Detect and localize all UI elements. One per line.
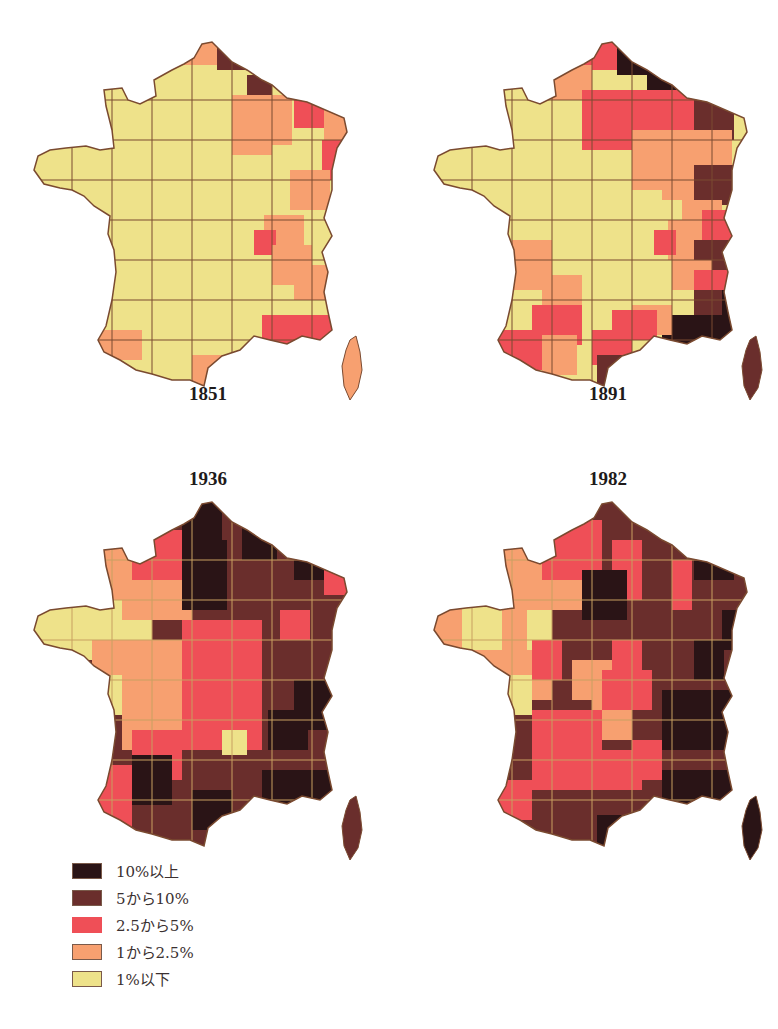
legend-swatch xyxy=(72,917,102,933)
legend-swatch xyxy=(72,863,102,879)
legend-item-5-10: 5から10% xyxy=(72,884,194,911)
map-1936 xyxy=(32,500,372,870)
legend-label: 5から10% xyxy=(116,887,189,908)
legend-swatch xyxy=(72,890,102,906)
year-label-1891: 1891 xyxy=(568,383,648,405)
legend-item-under-1: 1%以下 xyxy=(72,965,194,992)
year-label-1851: 1851 xyxy=(168,383,248,405)
year-label-1936: 1936 xyxy=(168,468,248,490)
legend-label: 1から2.5% xyxy=(116,941,194,962)
legend-swatch xyxy=(72,971,102,987)
year-label-1982: 1982 xyxy=(568,468,648,490)
legend-item-10plus: 10%以上 xyxy=(72,857,194,884)
legend: 10%以上 5から10% 2.5から5% 1から2.5% 1%以下 xyxy=(72,857,194,992)
map-1982 xyxy=(432,500,772,870)
legend-item-1-2_5: 1から2.5% xyxy=(72,938,194,965)
legend-label: 1%以下 xyxy=(116,968,170,989)
legend-swatch xyxy=(72,944,102,960)
legend-label: 10%以上 xyxy=(116,860,179,881)
legend-label: 2.5から5% xyxy=(116,914,194,935)
map-1851 xyxy=(32,40,372,410)
map-1891 xyxy=(432,40,772,410)
legend-item-2_5-5: 2.5から5% xyxy=(72,911,194,938)
